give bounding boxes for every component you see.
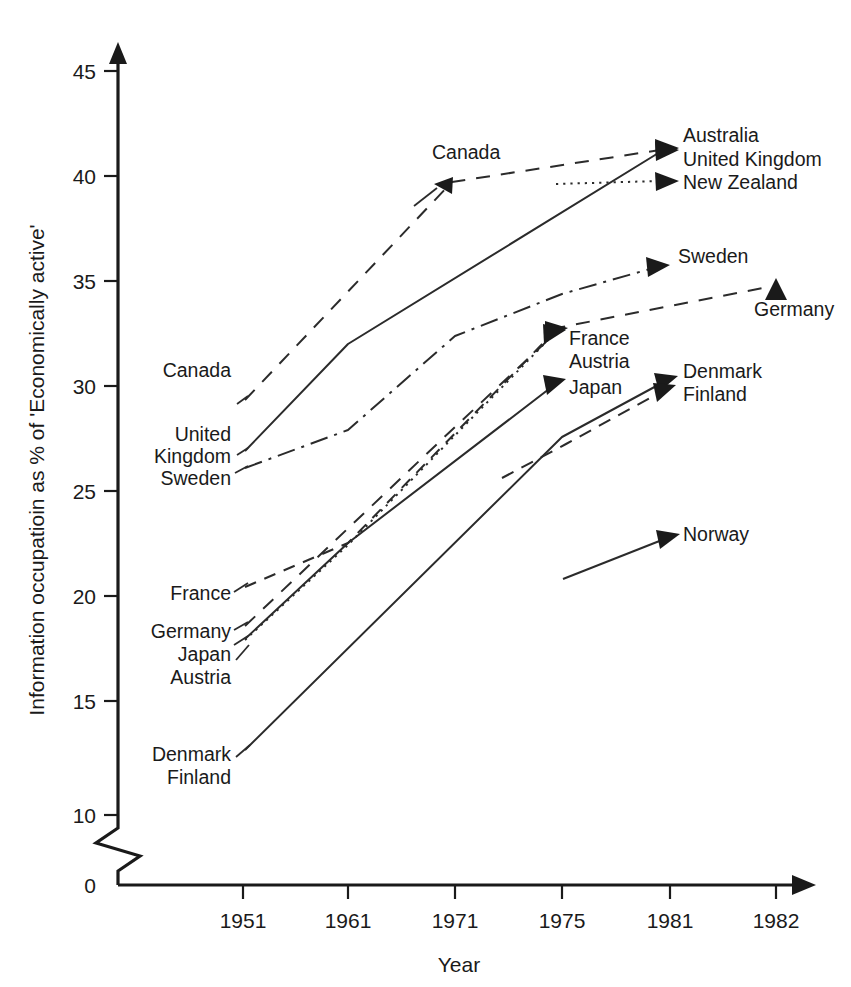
x-tick-label-1951: 1951 <box>220 909 267 932</box>
label-norway-right: Norway <box>683 523 749 545</box>
y-axis-arrowhead <box>109 42 127 64</box>
label-united-left: United <box>175 423 231 445</box>
y-tick-label-10: 10 <box>73 804 96 827</box>
series-arrowhead-japan <box>543 375 566 395</box>
label-denmark-left: Denmark <box>152 743 231 765</box>
label-austria-left: Austria <box>170 666 231 688</box>
y-tick-label-15: 15 <box>73 690 96 713</box>
label-kingdom-left: Kingdom <box>154 445 231 467</box>
series-line-germany <box>245 287 768 626</box>
y-tick-label-40: 40 <box>73 165 96 188</box>
series-line-norway <box>563 540 662 579</box>
label-france-right: France <box>569 327 630 349</box>
label-canada-top: Canada <box>432 141 500 163</box>
left-label-leaders <box>234 396 250 757</box>
x-tick-label-1961: 1961 <box>325 909 372 932</box>
label-finland-right: Finland <box>683 383 747 405</box>
series-united-kingdom <box>245 141 679 451</box>
series-arrowhead-finland <box>653 383 676 402</box>
series-line-united-kingdom <box>245 152 660 451</box>
left-series-labels: Canada United Kingdom Sweden France Germ… <box>151 359 231 788</box>
series-germany <box>245 278 787 626</box>
series-new-zealand <box>556 172 679 191</box>
right-series-labels: Canada Australia United Kingdom New Zeal… <box>432 124 834 545</box>
series-arrowhead-sweden <box>646 257 670 277</box>
y-tick-label-25: 25 <box>73 480 96 503</box>
label-sweden-left: Sweden <box>161 467 231 489</box>
series-line-austria <box>245 338 550 640</box>
label-australia-right: Australia <box>683 124 759 146</box>
x-axis-tick-labels: 1951 1961 1971 1975 1981 1982 <box>220 909 800 932</box>
chart-figure: 45 40 35 30 25 20 15 10 0 1951 1961 1971… <box>0 0 851 987</box>
y-axis-ticks <box>104 71 118 815</box>
label-france-left: France <box>170 582 231 604</box>
y-tick-label-20: 20 <box>73 585 96 608</box>
label-finland-left: Finland <box>167 766 231 788</box>
leader-austria-left <box>236 645 249 660</box>
x-tick-label-1975: 1975 <box>539 909 586 932</box>
y-tick-label-30: 30 <box>73 375 96 398</box>
x-tick-label-1982: 1982 <box>753 909 800 932</box>
label-new-zealand-right: New Zealand <box>683 171 798 193</box>
series-denmark <box>245 373 678 750</box>
y-axis <box>96 42 140 885</box>
y-axis-title: Information occupatioin as % of 'Economi… <box>25 224 48 715</box>
label-japan-left: Japan <box>178 643 231 665</box>
series-norway <box>563 530 680 579</box>
x-axis-title: Year <box>438 953 480 976</box>
x-tick-label-1971: 1971 <box>432 909 479 932</box>
label-canada-left: Canada <box>163 359 231 381</box>
series-line-france <box>245 334 552 587</box>
series-arrowhead-new-zealand <box>655 172 679 191</box>
label-austria-right: Austria <box>569 350 630 372</box>
leader-sweden-left <box>235 466 248 473</box>
label-germany-left: Germany <box>151 620 231 642</box>
label-denmark-right: Denmark <box>683 360 762 382</box>
series-arrowhead-norway <box>656 530 680 549</box>
series-france <box>245 321 568 587</box>
leader-united-kingdom-left <box>237 448 248 455</box>
leader-denmark-left <box>236 745 250 757</box>
line-chart-canvas: 45 40 35 30 25 20 15 10 0 1951 1961 1971… <box>0 0 851 987</box>
series-arrowhead-germany <box>765 278 787 300</box>
x-axis <box>118 875 816 899</box>
x-tick-label-1981: 1981 <box>647 909 694 932</box>
canada-top-leader <box>414 188 437 206</box>
label-united-kingdom-right: United Kingdom <box>683 148 822 170</box>
series-line-japan <box>245 389 549 639</box>
series-japan <box>245 375 566 639</box>
x-axis-arrowhead <box>792 875 816 895</box>
label-sweden-right: Sweden <box>678 245 748 267</box>
y-axis-tick-labels: 45 40 35 30 25 20 15 10 0 <box>73 60 96 897</box>
label-japan-right: Japan <box>569 376 622 398</box>
y-tick-label-0: 0 <box>84 874 96 897</box>
y-tick-label-35: 35 <box>73 270 96 293</box>
y-axis-break-zigzag <box>96 820 140 885</box>
label-germany-right: Germany <box>754 298 834 320</box>
y-tick-label-45: 45 <box>73 60 96 83</box>
